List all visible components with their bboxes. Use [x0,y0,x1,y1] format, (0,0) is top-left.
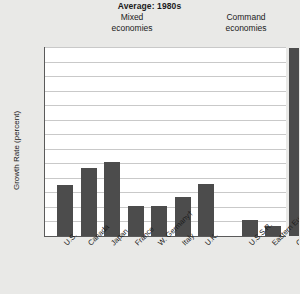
bar [57,185,73,236]
group-header-mixed-economies: Mixed economies [96,12,168,34]
bar-chart-figure: Average: 1980s Mixed economies Command e… [0,0,299,294]
chart-title: Average: 1980s [0,1,299,11]
y-axis-title: Growth Rate (percent) [12,81,21,221]
group-header-command-line2: economies [208,23,284,34]
group-header-mixed-line1: Mixed [96,12,168,23]
bar [289,48,300,237]
group-header-mixed-line2: economies [96,23,168,34]
bars-container [45,47,286,236]
bar [81,168,97,236]
group-header-command-economies: Command economies [208,12,284,34]
bar [198,184,214,236]
plot-area [44,47,286,237]
group-header-command-line1: Command [208,12,284,23]
